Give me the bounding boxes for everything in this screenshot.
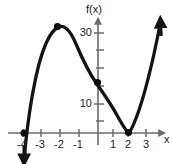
x-axis-title: x — [164, 134, 170, 145]
point-y-intercept — [94, 79, 101, 86]
y-tick-label-30: 30 — [74, 27, 92, 38]
x-tick-label-3: 3 — [143, 139, 149, 150]
y-tick-label-10: 10 — [74, 98, 92, 109]
x-tick-label-minus1: -1 — [73, 139, 83, 150]
marked-points — [20, 23, 132, 137]
curve-end-arrow-up — [161, 23, 162, 36]
x-tick-label-2: 2 — [125, 139, 131, 150]
point-root-minus4 — [20, 129, 27, 136]
x-tick-label-minus4: -4 — [17, 139, 27, 150]
y-axis-ticks — [94, 33, 104, 121]
x-tick-label-minus2: -2 — [54, 139, 64, 150]
point-double-root-minimum — [125, 129, 132, 136]
x-tick-label-minus3: -3 — [35, 139, 45, 150]
function-graph-figure: f(x) x 30 10 -4 -3 -2 -1 1 2 3 — [0, 0, 173, 164]
y-axis-title: f(x) — [86, 4, 102, 15]
point-local-maximum — [54, 23, 61, 30]
x-tick-label-1: 1 — [110, 139, 116, 150]
